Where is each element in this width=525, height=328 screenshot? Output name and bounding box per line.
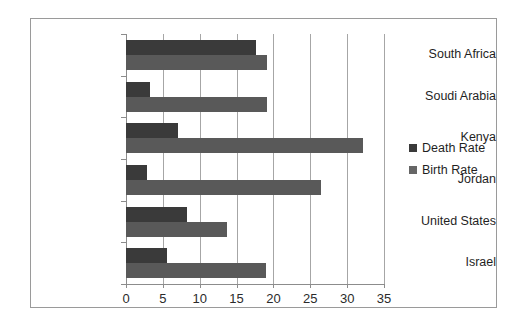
x-gridline <box>126 34 127 284</box>
x-tick-mark <box>310 284 311 288</box>
category-tick-mark <box>121 117 126 118</box>
bar-death-rate <box>126 165 147 180</box>
x-tick-mark <box>237 284 238 288</box>
x-tick-label: 10 <box>180 291 220 306</box>
bar-death-rate <box>126 123 178 138</box>
chart-figure: Death RateBirth Rate 05101520253035South… <box>30 18 497 308</box>
x-gridline <box>347 34 348 284</box>
category-tick-mark <box>121 159 126 160</box>
bar-birth-rate <box>126 138 363 153</box>
x-tick-mark <box>347 284 348 288</box>
x-tick-mark <box>384 284 385 288</box>
x-gridline <box>163 34 164 284</box>
x-tick-label: 0 <box>106 291 146 306</box>
category-tick-mark <box>121 242 126 243</box>
x-tick-mark <box>163 284 164 288</box>
category-label: United States <box>404 214 496 228</box>
category-tick-mark <box>121 34 126 35</box>
bar-birth-rate <box>126 222 227 237</box>
category-label: Israel <box>404 255 496 269</box>
category-tick-mark <box>121 284 126 285</box>
x-tick-mark <box>200 284 201 288</box>
x-axis-line <box>126 284 385 285</box>
x-tick-label: 15 <box>217 291 257 306</box>
bar-birth-rate <box>126 55 267 70</box>
x-gridline <box>310 34 311 284</box>
category-label: Soudi Arabia <box>404 89 496 103</box>
x-tick-label: 5 <box>143 291 183 306</box>
bar-death-rate <box>126 40 256 55</box>
category-tick-mark <box>121 76 126 77</box>
x-gridline <box>200 34 201 284</box>
x-tick-label: 25 <box>290 291 330 306</box>
x-tick-mark <box>273 284 274 288</box>
x-gridline <box>273 34 274 284</box>
bar-death-rate <box>126 207 187 222</box>
x-tick-label: 20 <box>253 291 293 306</box>
x-tick-label: 35 <box>364 291 404 306</box>
category-label: South Africa <box>404 47 496 61</box>
category-tick-mark <box>121 201 126 202</box>
category-label: Jordan <box>404 172 496 186</box>
plot-area <box>126 34 384 284</box>
bar-birth-rate <box>126 263 266 278</box>
bar-death-rate <box>126 248 167 263</box>
legend-swatch-icon <box>409 144 417 152</box>
bar-death-rate <box>126 82 150 97</box>
x-gridline <box>384 34 385 284</box>
x-tick-mark <box>126 284 127 288</box>
bar-birth-rate <box>126 97 267 112</box>
x-gridline <box>237 34 238 284</box>
category-label: Kenya <box>404 130 496 144</box>
bar-birth-rate <box>126 180 321 195</box>
x-tick-label: 30 <box>327 291 367 306</box>
